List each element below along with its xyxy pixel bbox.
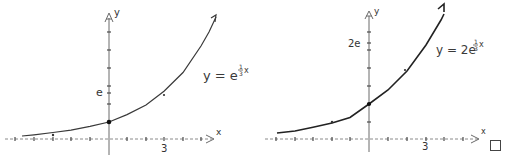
left-x-tick-label: 3	[161, 143, 167, 154]
right-intercept-point	[367, 102, 371, 106]
left-chart: y x e 3 y = e 1 3 x	[5, 7, 249, 155]
left-equation-exp-num: 1	[239, 63, 243, 70]
right-equation: y = 2e 1 3 x	[436, 38, 484, 57]
right-x-axis-label: x	[481, 127, 486, 136]
left-curve-marker	[163, 94, 165, 96]
right-curve-arrow-icon	[438, 4, 444, 12]
left-equation-base: y = e	[203, 68, 238, 83]
left-x-axis-label: x	[216, 127, 222, 137]
right-chart: y x 2e 3 y = 2e 1 3 x	[265, 4, 486, 152]
end-of-proof-square-icon	[490, 140, 501, 151]
right-curve-marker	[404, 69, 406, 71]
left-curve	[22, 17, 216, 136]
right-equation-base: y = 2e	[436, 43, 476, 57]
left-y-axis-label: y	[114, 7, 120, 18]
left-equation-exp-den: 3	[239, 70, 243, 77]
left-y-tick-label: e	[96, 86, 103, 99]
right-curve	[277, 14, 444, 133]
left-equation-exp-var: x	[244, 66, 249, 75]
right-y-axis-label: y	[374, 6, 380, 16]
right-y-tick-label: 2e	[348, 38, 361, 49]
figure-canvas: y x e 3 y = e 1 3 x	[0, 0, 509, 157]
right-equation-exp-den: 3	[474, 45, 478, 52]
left-curve-marker	[52, 134, 54, 136]
left-intercept-point	[107, 120, 112, 125]
right-equation-exp-num: 1	[474, 38, 478, 45]
right-x-tick-label: 3	[422, 141, 428, 152]
left-equation: y = e 1 3 x	[203, 63, 249, 83]
right-equation-exp-var: x	[479, 40, 484, 49]
right-curve-marker	[331, 121, 333, 123]
